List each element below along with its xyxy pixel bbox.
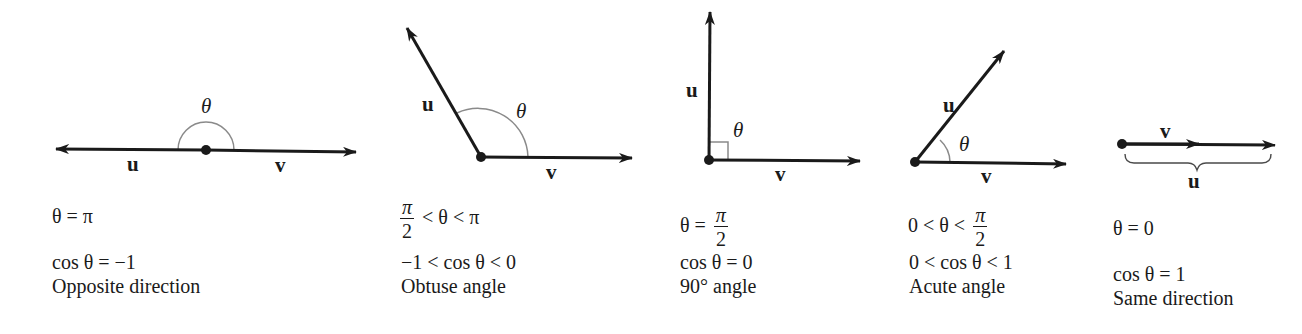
vector-u-label: u <box>127 154 139 175</box>
panel-obtuse-drawing <box>407 28 632 162</box>
vector-u-label: u <box>1188 171 1200 192</box>
theta-label: θ <box>516 101 526 122</box>
cosine-condition: 0 < cos θ < 1 <box>909 252 1013 272</box>
description: Obtuse angle <box>401 276 506 296</box>
cosine-condition: cos θ = −1 <box>52 252 136 272</box>
vector-angle-diagram: θ u v θ = π cos θ = −1 Opposite directio… <box>0 0 1302 334</box>
description: Opposite direction <box>52 276 200 296</box>
angle-condition: θ =π2 <box>680 205 730 249</box>
angle-condition: θ = π <box>52 206 93 226</box>
vector-v-label: v <box>275 155 286 176</box>
vector-u-arrow <box>709 12 710 160</box>
theta-label: θ <box>201 96 211 117</box>
panel-right-drawing <box>704 12 860 165</box>
angle-condition: 0 < θ <π2 <box>908 205 989 249</box>
vector-u-label: u <box>943 95 955 116</box>
origin-dot <box>476 152 486 162</box>
description: 90° angle <box>680 276 756 296</box>
cosine-condition: cos θ = 0 <box>680 252 753 272</box>
vector-v-arrow <box>709 160 860 161</box>
vector-u-arrow <box>56 149 206 150</box>
angle-arc-icon <box>940 140 950 162</box>
vector-u-label: u <box>686 80 698 101</box>
vector-u-arrow <box>407 28 481 157</box>
fraction: π2 <box>714 205 728 249</box>
description: Same direction <box>1113 288 1234 308</box>
cosine-condition: cos θ = 1 <box>1113 264 1186 284</box>
theta-label: θ <box>733 120 743 141</box>
fraction: π2 <box>400 197 414 241</box>
vector-v-arrow <box>481 157 632 158</box>
vector-v-label: v <box>1160 121 1171 142</box>
panel-opposite-drawing <box>56 122 356 155</box>
cosine-condition: −1 < cos θ < 0 <box>401 252 516 272</box>
angle-condition: π2< θ < π <box>398 197 479 241</box>
description: Acute angle <box>909 276 1005 296</box>
brace-icon <box>1125 154 1271 170</box>
origin-dot <box>704 155 714 165</box>
origin-dot <box>201 145 211 155</box>
origin-dot <box>1117 139 1127 149</box>
vector-v-label: v <box>775 164 786 185</box>
vector-v-label: v <box>981 166 992 187</box>
theta-label: θ <box>959 134 969 155</box>
vector-u-label: u <box>422 94 434 115</box>
fraction: π2 <box>973 205 987 249</box>
panel-acute-drawing <box>910 51 1066 167</box>
origin-dot <box>910 157 920 167</box>
vector-v-label: v <box>546 162 557 183</box>
panel-same-drawing <box>1117 139 1275 170</box>
vector-u-arrow <box>1122 144 1275 145</box>
vector-v-arrow <box>206 150 356 152</box>
angle-condition: θ = 0 <box>1113 218 1154 238</box>
